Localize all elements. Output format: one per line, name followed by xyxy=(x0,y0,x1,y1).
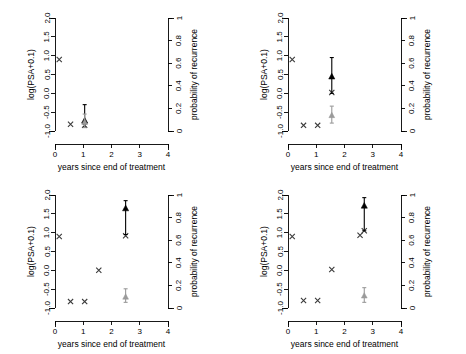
chart-panel-1: -1.0-0.50.00.51.01.52.0log(PSA+0.1)00.20… xyxy=(0,0,233,177)
y-axis-left-tick-label: 0.5 xyxy=(43,245,52,257)
x-axis-title: years since end of treatment xyxy=(291,162,399,172)
x-axis-tick-label: 3 xyxy=(371,327,376,336)
y-axis-right-title: probability of recurrence xyxy=(189,29,199,120)
x-axis-tick-label: 2 xyxy=(109,150,114,159)
observed-marker xyxy=(57,234,62,239)
y-axis-right-tick-label: 0.8 xyxy=(175,34,184,46)
y-axis-left-title: log(PSA+0.1) xyxy=(259,49,269,100)
y-axis-right-tick-label: 0.4 xyxy=(175,80,184,92)
y-axis-right-tick-label: 0.4 xyxy=(175,257,184,269)
observed-marker xyxy=(290,57,295,62)
x-axis-tick-label: 1 xyxy=(81,327,86,336)
y-axis-right-title: probability of recurrence xyxy=(189,206,199,297)
y-axis-left-tick-label: 1.0 xyxy=(43,50,52,62)
y-axis-right-tick-label: 0.2 xyxy=(408,102,417,114)
y-axis-left-tick-label: -1.0 xyxy=(276,301,285,315)
y-axis-left-tick-label: 0.0 xyxy=(276,264,285,276)
observed-marker xyxy=(315,123,320,128)
x-axis-tick-label: 2 xyxy=(109,327,114,336)
y-axis-right-tick-label: 0.2 xyxy=(175,279,184,291)
prediction-marker xyxy=(361,202,367,208)
x-axis-title: years since end of treatment xyxy=(58,339,166,349)
y-axis-right-tick-label: 0.4 xyxy=(408,80,417,92)
y-axis-left-tick-label: -0.5 xyxy=(276,282,285,296)
observed-marker xyxy=(96,268,101,273)
probability-marker xyxy=(361,293,367,298)
x-axis-tick-label: 3 xyxy=(371,150,376,159)
x-axis-tick-label: 4 xyxy=(399,327,404,336)
panel-canvas: -1.0-0.50.00.51.01.52.0log(PSA+0.1)00.20… xyxy=(233,0,466,177)
series-predicted-log-psa-0-1- xyxy=(123,201,129,235)
observed-marker xyxy=(82,299,87,304)
y-axis-left-title: log(PSA+0.1) xyxy=(26,226,36,277)
y-axis-left-tick-label: 2.0 xyxy=(276,189,285,201)
y-axis-left-tick-label: -1.0 xyxy=(276,124,285,138)
y-axis-right-tick-label: 0 xyxy=(175,128,184,133)
x-axis-tick-label: 0 xyxy=(286,150,291,159)
y-axis-right-tick-label: 0.6 xyxy=(408,57,417,69)
panel-canvas: -1.0-0.50.00.51.01.52.0log(PSA+0.1)00.20… xyxy=(0,0,233,177)
y-axis-left-tick-label: 0.5 xyxy=(43,68,52,80)
y-axis-left-tick-label: 0.5 xyxy=(276,68,285,80)
y-axis-left-tick-label: -0.5 xyxy=(43,282,52,296)
y-axis-left-title: log(PSA+0.1) xyxy=(259,226,269,277)
y-axis-left-tick-label: 0.5 xyxy=(276,245,285,257)
y-axis-left-tick-label: 2.0 xyxy=(43,189,52,201)
panel-canvas: -1.0-0.50.00.51.01.52.0log(PSA+0.1)00.20… xyxy=(233,177,466,354)
y-axis-right-tick-label: 0.2 xyxy=(175,102,184,114)
x-axis-tick-label: 3 xyxy=(138,327,143,336)
prediction-marker xyxy=(329,73,335,79)
y-axis-left-tick-label: 1.0 xyxy=(276,50,285,62)
x-axis-tick-label: 2 xyxy=(342,150,347,159)
x-axis-title: years since end of treatment xyxy=(58,162,166,172)
observed-marker xyxy=(290,234,295,239)
y-axis-left-tick-label: 1.5 xyxy=(276,208,285,220)
series-predicted-log-psa-0-1- xyxy=(329,58,335,94)
series-probability-of-recurrence xyxy=(123,289,129,303)
y-axis-left-tick-label: 2.0 xyxy=(43,12,52,24)
y-axis-left-tick-label: -0.5 xyxy=(276,105,285,119)
y-axis-left-tick-label: -1.0 xyxy=(43,301,52,315)
y-axis-left-tick-label: 1.0 xyxy=(43,227,52,239)
y-axis-left-title: log(PSA+0.1) xyxy=(26,49,36,100)
x-axis-tick-label: 0 xyxy=(53,150,58,159)
x-axis-tick-label: 0 xyxy=(53,327,58,336)
y-axis-left-tick-label: 1.5 xyxy=(43,208,52,220)
y-axis-right-line xyxy=(401,195,407,308)
chart-panel-4: -1.0-0.50.00.51.01.52.0log(PSA+0.1)00.20… xyxy=(233,177,466,354)
y-axis-left-tick-label: 1.5 xyxy=(276,31,285,43)
y-axis-right-tick-label: 0.4 xyxy=(408,257,417,269)
y-axis-right-tick-label: 1 xyxy=(175,15,184,20)
x-axis-tick-label: 4 xyxy=(399,150,404,159)
series-observed-log-psa-0-1- xyxy=(290,228,367,303)
y-axis-right-title: probability of recurrence xyxy=(422,206,432,297)
x-axis-tick-label: 1 xyxy=(314,327,319,336)
series-probability-of-recurrence xyxy=(361,288,367,303)
chart-panel-3: -1.0-0.50.00.51.01.52.0log(PSA+0.1)00.20… xyxy=(0,177,233,354)
x-axis-tick-label: 1 xyxy=(314,150,319,159)
x-axis-tick-label: 0 xyxy=(286,327,291,336)
y-axis-right-tick-label: 0 xyxy=(408,128,417,133)
x-axis-tick-label: 4 xyxy=(166,327,171,336)
y-axis-left-tick-label: 1.5 xyxy=(43,31,52,43)
series-observed-log-psa-0-1- xyxy=(57,57,88,128)
figure-panel-grid: -1.0-0.50.00.51.01.52.0log(PSA+0.1)00.20… xyxy=(0,0,466,354)
y-axis-left-tick-label: 1.0 xyxy=(276,227,285,239)
y-axis-right-tick-label: 0 xyxy=(175,305,184,310)
series-observed-log-psa-0-1- xyxy=(290,57,335,128)
series-predicted-log-psa-0-1- xyxy=(361,198,367,231)
x-axis-tick-label: 1 xyxy=(81,150,86,159)
panel-canvas: -1.0-0.50.00.51.01.52.0log(PSA+0.1)00.20… xyxy=(0,177,233,354)
observed-marker xyxy=(315,298,320,303)
x-axis-tick-label: 4 xyxy=(166,150,171,159)
y-axis-left-tick-label: 0.0 xyxy=(276,87,285,99)
prediction-marker xyxy=(123,205,129,211)
y-axis-right-tick-label: 0.6 xyxy=(175,234,184,246)
y-axis-right-line xyxy=(168,18,174,131)
observed-marker xyxy=(301,298,306,303)
observed-marker xyxy=(57,57,62,62)
y-axis-right-title: probability of recurrence xyxy=(422,29,432,120)
y-axis-right-line xyxy=(401,18,407,131)
y-axis-left-tick-label: 0.0 xyxy=(43,87,52,99)
observed-marker xyxy=(329,267,334,272)
